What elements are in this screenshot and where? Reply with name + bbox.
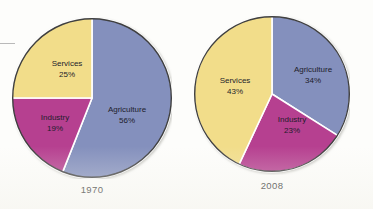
- pie-chart-2008: Agriculture 34% Services 43% Industry 23…: [194, 14, 350, 209]
- pie-svg-2008: [194, 14, 350, 175]
- pie-chart-1970: Services 25% Industry 19% Agriculture 56…: [12, 17, 172, 209]
- pie-wrap-2008: Agriculture 34% Services 43% Industry 23…: [194, 14, 350, 175]
- pie-wrap-1970: Services 25% Industry 19% Agriculture 56…: [12, 17, 172, 179]
- pie-svg-1970: [12, 17, 172, 179]
- year-label-1970: 1970: [12, 184, 172, 195]
- pie-chart-figure: Services 25% Industry 19% Agriculture 56…: [0, 0, 373, 209]
- year-label-2008: 2008: [194, 180, 350, 191]
